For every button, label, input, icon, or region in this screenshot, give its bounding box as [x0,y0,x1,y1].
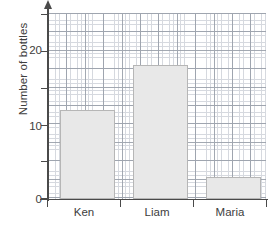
bar-ken [60,110,115,199]
plot-area [48,13,266,199]
x-axis-line [40,199,268,201]
bar-maria [206,177,261,199]
bar-chart: Number of bottles 20 10 0 Ken Liam Maria [0,0,274,234]
y-axis-tick-labels: 20 10 0 [14,0,42,234]
y-axis-line [47,3,49,201]
y-tick-mark-25 [41,14,48,15]
x-tick-label-maria: Maria [194,205,266,219]
y-tick-label-10: 10 [16,120,42,132]
x-tick-label-liam: Liam [121,205,193,219]
y-tick-label-0: 0 [16,193,42,205]
y-tick-label-20: 20 [16,44,42,56]
x-tick-label-ken: Ken [48,205,120,219]
y-axis-arrow-icon [44,0,52,9]
y-tick-mark-5 [41,161,48,162]
y-tick-mark-20 [41,51,48,52]
bar-liam [133,65,188,199]
y-tick-mark-10 [41,125,48,126]
x-tick-mark-3 [266,200,267,207]
y-tick-mark-15 [41,88,48,89]
